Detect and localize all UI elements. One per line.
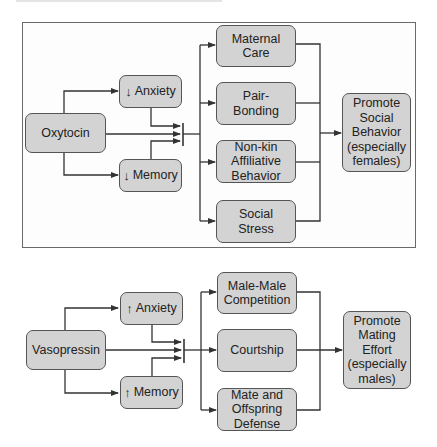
memory-label: Memory	[133, 168, 178, 183]
oxytocin-box: Oxytocin	[25, 113, 106, 153]
social-stress-box: Social Stress	[216, 200, 296, 243]
male-male-competition-label: Male-Male Competition	[224, 279, 291, 308]
non-kin-affiliative-box: Non-kin Affiliative Behavior	[216, 140, 296, 183]
mate-offspring-defense-label: Mate and Offspring Defense	[231, 388, 283, 432]
promote-social-behavior-label: Promote Social Behavior (especially fema…	[347, 96, 406, 169]
mate-offspring-defense-box: Mate and Offspring Defense	[217, 388, 297, 431]
promote-mating-effort-box: Promote Mating Effort (especially males)	[343, 311, 411, 389]
anxiety-label: Anxiety	[136, 301, 177, 316]
anxiety-label: Anxiety	[135, 84, 176, 99]
up-arrow-icon: ↑	[126, 303, 133, 315]
up-arrow-icon: ↑	[124, 387, 131, 399]
courtship-label: Courtship	[230, 343, 284, 358]
pair-bonding-label: Pair- Bonding	[233, 89, 279, 118]
oxytocin-anxiety-box: ↓ Anxiety	[119, 75, 182, 108]
social-stress-label: Social Stress	[238, 207, 273, 236]
oxytocin-memory-box: ↓ Memory	[119, 159, 182, 192]
vasopressin-anxiety-box: ↑ Anxiety	[120, 292, 183, 325]
vasopressin-label: Vasopressin	[32, 343, 100, 358]
promote-mating-effort-label: Promote Mating Effort (especially males)	[347, 314, 406, 387]
down-arrow-icon: ↓	[125, 86, 132, 98]
down-arrow-icon: ↓	[123, 170, 130, 182]
memory-label: Memory	[134, 385, 179, 400]
oxytocin-label: Oxytocin	[41, 126, 90, 141]
vasopressin-box: Vasopressin	[26, 330, 106, 370]
maternal-care-label: Maternal Care	[232, 32, 281, 61]
vasopressin-memory-box: ↑ Memory	[120, 376, 183, 409]
courtship-box: Courtship	[217, 329, 297, 372]
maternal-care-box: Maternal Care	[216, 25, 296, 67]
pair-bonding-box: Pair- Bonding	[216, 82, 296, 125]
male-male-competition-box: Male-Male Competition	[217, 272, 297, 314]
non-kin-affiliative-label: Non-kin Affiliative Behavior	[231, 140, 281, 184]
promote-social-behavior-box: Promote Social Behavior (especially fema…	[342, 93, 411, 172]
